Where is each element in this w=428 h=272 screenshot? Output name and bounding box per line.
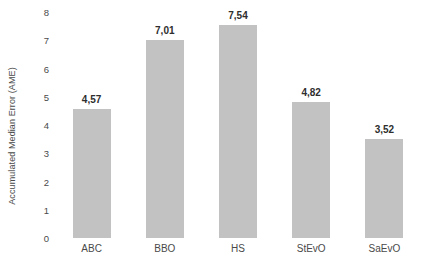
bar-slot-stevo: 4,82 <box>275 12 348 238</box>
bar-value-label-saevo: 3,52 <box>375 124 394 135</box>
y-axis-tick-4: 4 <box>33 120 49 131</box>
bar-value-label-hs: 7,54 <box>228 10 247 21</box>
x-axis-label-stevo: StEvO <box>297 243 326 254</box>
x-axis-label-bbo: BBO <box>154 243 175 254</box>
y-axis-tick-6: 6 <box>33 63 49 74</box>
y-axis-tick-8: 8 <box>33 7 49 18</box>
bar-value-label-stevo: 4,82 <box>301 87 320 98</box>
bar-value-label-abc: 4,57 <box>82 94 101 105</box>
plot-area: 4,577,017,544,823,52 <box>55 12 421 238</box>
y-axis-tick-labels: 012345678 <box>33 12 49 238</box>
y-axis-tick-7: 7 <box>33 35 49 46</box>
bar-slot-saevo: 3,52 <box>348 12 421 238</box>
y-axis-tick-5: 5 <box>33 91 49 102</box>
bar-chart-figure: Accumulated Median Error (AME) 012345678… <box>0 0 428 272</box>
bar-abc[interactable]: 4,57 <box>73 109 111 238</box>
y-axis-tick-0: 0 <box>33 233 49 244</box>
x-axis-label-hs: HS <box>231 243 245 254</box>
y-axis-title: Accumulated Median Error (AME) <box>0 0 24 272</box>
bar-stevo[interactable]: 4,82 <box>292 102 330 238</box>
x-axis-category-labels: ABCBBOHSStEvOSaEvO <box>55 243 421 261</box>
x-axis-label-saevo: SaEvO <box>369 243 401 254</box>
x-axis-label-abc: ABC <box>81 243 102 254</box>
bar-slot-hs: 7,54 <box>201 12 274 238</box>
bar-slot-abc: 4,57 <box>55 12 128 238</box>
bar-hs[interactable]: 7,54 <box>219 25 257 238</box>
bar-saevo[interactable]: 3,52 <box>365 139 403 238</box>
y-axis-tick-3: 3 <box>33 148 49 159</box>
bar-bbo[interactable]: 7,01 <box>146 40 184 238</box>
bar-value-label-bbo: 7,01 <box>155 25 174 36</box>
y-axis-tick-2: 2 <box>33 176 49 187</box>
bar-slot-bbo: 7,01 <box>128 12 201 238</box>
y-axis-tick-1: 1 <box>33 204 49 215</box>
